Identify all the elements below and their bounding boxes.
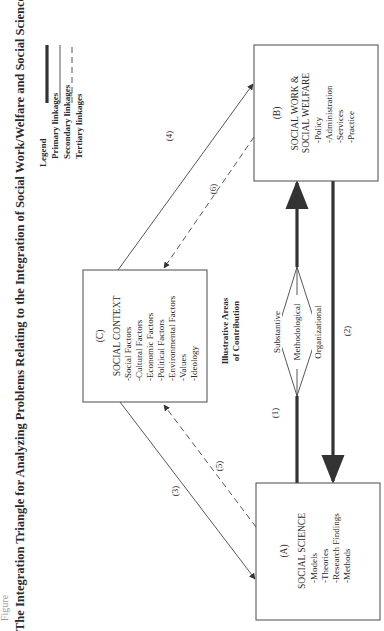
node-c-item: -Environmental Factors bbox=[167, 295, 177, 381]
edge-1-label: (1) bbox=[270, 408, 280, 419]
edge-6-label: (6) bbox=[208, 184, 218, 195]
area-substantive: Substantive bbox=[272, 311, 282, 353]
node-c-item: -Values bbox=[178, 354, 188, 381]
edge-6-line bbox=[164, 137, 254, 268]
edge-5-line bbox=[164, 405, 256, 527]
legend-primary-label: Primary linkages bbox=[50, 92, 60, 159]
node-b-id: (B) bbox=[272, 107, 283, 120]
node-b-item: -Policy bbox=[313, 117, 323, 143]
edge-3-line bbox=[120, 402, 255, 579]
node-a-item: -Models bbox=[309, 553, 319, 583]
edge-3-label: (3) bbox=[170, 486, 180, 497]
edge-2-label: (2) bbox=[342, 326, 352, 337]
node-a-social-science: (A) SOCIAL SCIENCE -Models -Theories -Re… bbox=[256, 483, 380, 620]
legend: Legend Primary linkages Secondary linkag… bbox=[38, 45, 84, 167]
contribution-heading-line1: Illustrative Areas bbox=[220, 297, 230, 364]
figure-label: Figure bbox=[0, 594, 10, 621]
edge-4-label: (4) bbox=[164, 131, 174, 142]
legend-tertiary-label: Tertiary linkages bbox=[74, 93, 84, 159]
node-b-item: -Administration bbox=[324, 85, 334, 143]
node-b-title-line1: SOCIAL WORK & bbox=[290, 75, 300, 151]
node-c-item: -Ideology bbox=[189, 346, 199, 381]
integration-triangle-diagram: Figure The Integration Triangle for Anal… bbox=[0, 0, 384, 631]
node-c-title: SOCIAL CONTEXT bbox=[112, 295, 122, 376]
node-a-title: SOCIAL SCIENCE bbox=[297, 513, 307, 589]
node-b-item: -Services bbox=[335, 109, 345, 143]
node-c-item: -Social Factors bbox=[123, 326, 133, 381]
node-a-item: -Research Findings bbox=[331, 513, 341, 583]
node-c-item: -Economic Factors bbox=[145, 312, 155, 381]
node-b-social-work: (B) SOCIAL WORK & SOCIAL WELFARE -Policy… bbox=[254, 45, 378, 181]
contribution-heading-line2: of Contribution bbox=[231, 301, 241, 361]
edge-5-label: (5) bbox=[214, 461, 224, 472]
node-a-item: -Methods bbox=[342, 548, 352, 583]
node-c-item: -Cultural Factors bbox=[134, 319, 144, 381]
edge-4-line bbox=[118, 84, 253, 270]
node-a-item: -Theories bbox=[320, 548, 330, 583]
legend-secondary-label: Secondary linkages bbox=[62, 84, 72, 159]
node-b-title-line2: SOCIAL WELFARE bbox=[301, 73, 311, 154]
area-methodological: Methodological bbox=[292, 303, 302, 360]
node-b-item: -Practice bbox=[346, 111, 356, 143]
node-c-item: -Political Factors bbox=[156, 319, 166, 381]
figure-title: The Integration Triangle for Analyzing P… bbox=[13, 0, 27, 631]
node-a-id: (A) bbox=[279, 544, 290, 557]
node-c-social-context: (C) SOCIAL CONTEXT -Social Factors -Cult… bbox=[83, 270, 207, 402]
area-organizational: Organizational bbox=[313, 305, 323, 359]
contribution-diamond: Substantive Methodological Organizationa… bbox=[271, 267, 323, 396]
node-c-id: (C) bbox=[95, 330, 106, 343]
legend-heading: Legend bbox=[38, 138, 48, 167]
